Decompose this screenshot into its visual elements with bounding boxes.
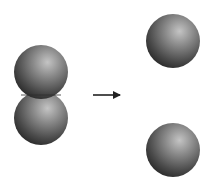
diagram-canvas [0,0,209,190]
before-group [14,45,68,145]
sphere-top-left [14,45,68,99]
after-group [146,14,200,177]
sphere-bottom-right [146,123,200,177]
sphere-top-right [146,14,200,68]
sphere-bottom-left [14,91,68,145]
